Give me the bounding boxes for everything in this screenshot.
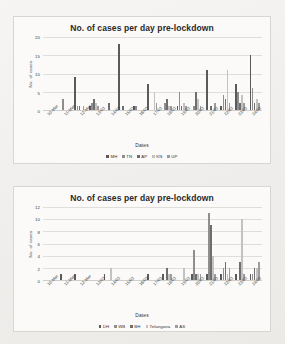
bar bbox=[110, 268, 112, 280]
legend-label: AS bbox=[179, 324, 185, 329]
legend-item: AS bbox=[175, 324, 185, 329]
legend-bottom: DHWBBHTelanganaAS bbox=[14, 324, 270, 329]
bar-group bbox=[72, 207, 87, 280]
bar-group bbox=[233, 37, 248, 110]
bar-group bbox=[101, 207, 116, 280]
legend-item: Telangana bbox=[146, 324, 171, 329]
y-tick-label: 10 bbox=[35, 72, 40, 77]
legend-item: BH bbox=[130, 324, 140, 329]
bar-groups-top bbox=[43, 37, 262, 110]
bar-group bbox=[204, 37, 219, 110]
bar-group bbox=[174, 207, 189, 280]
y-tick-label: 8 bbox=[38, 229, 40, 234]
plot-area-top: No. of cases 05101520 10-Mar11-Mar12-Mar… bbox=[18, 37, 264, 111]
y-tick-label: 5 bbox=[38, 90, 40, 95]
legend-label: Telangana bbox=[149, 324, 170, 329]
plot-area-bottom: No. of cases 024681012 10-Mar11-Mar12-Ma… bbox=[18, 207, 264, 281]
legend-label: UP bbox=[171, 154, 177, 159]
y-tick-label: 2 bbox=[38, 266, 40, 271]
y-tick-label: 10 bbox=[35, 217, 40, 222]
legend-swatch-icon bbox=[175, 325, 178, 328]
legend-swatch-icon bbox=[99, 325, 102, 328]
legend-label: WB bbox=[118, 324, 125, 329]
legend-swatch-icon bbox=[122, 155, 125, 158]
legend-label: DH bbox=[103, 324, 109, 329]
legend-swatch-icon bbox=[137, 155, 140, 158]
y-axis-ticks-bottom: 024681012 bbox=[27, 207, 41, 281]
figure-page: No. of cases per day pre-lockdown No. of… bbox=[0, 0, 285, 344]
plot-canvas-top bbox=[43, 37, 262, 111]
bar-group bbox=[58, 37, 73, 110]
legend-swatch-icon bbox=[106, 155, 109, 158]
bar-group bbox=[174, 37, 189, 110]
legend-label: KN bbox=[156, 154, 162, 159]
legend-swatch-icon bbox=[167, 155, 170, 158]
bar-group bbox=[116, 207, 131, 280]
y-tick-label: 0 bbox=[38, 279, 40, 284]
y-tick-label: 15 bbox=[35, 53, 40, 58]
legend-swatch-icon bbox=[130, 325, 133, 328]
x-axis-title-top: Dates bbox=[14, 143, 270, 148]
bar-group bbox=[160, 207, 175, 280]
bar-groups-bottom bbox=[43, 207, 262, 280]
legend-label: MH bbox=[110, 154, 117, 159]
bar-group bbox=[233, 207, 248, 280]
y-tick-label: 6 bbox=[38, 242, 40, 247]
legend-label: TN bbox=[126, 154, 132, 159]
legend-label: AP bbox=[141, 154, 147, 159]
legend-item: AP bbox=[137, 154, 147, 159]
chart-card-top: No. of cases per day pre-lockdown No. of… bbox=[13, 16, 271, 164]
legend-swatch-icon bbox=[146, 325, 149, 328]
bar-group bbox=[218, 37, 233, 110]
x-axis-labels-bottom: 10-Mar11-Mar12-Mar13/0314/0315/0316/0317… bbox=[43, 283, 262, 309]
chart-title-bottom: No. of cases per day pre-lockdown bbox=[14, 193, 270, 203]
legend-item: WB bbox=[114, 324, 125, 329]
bar-group bbox=[87, 207, 102, 280]
legend-item: MH bbox=[106, 154, 117, 159]
bar-group bbox=[131, 207, 146, 280]
bar-group bbox=[43, 207, 58, 280]
bar bbox=[62, 99, 64, 110]
chart-title-top: No. of cases per day pre-lockdown bbox=[14, 23, 270, 33]
legend-top: MHTNAPKNUP bbox=[14, 154, 270, 159]
legend-label: BH bbox=[134, 324, 140, 329]
legend-item: TN bbox=[122, 154, 132, 159]
bar-group bbox=[218, 207, 233, 280]
bar-group bbox=[58, 207, 73, 280]
bar bbox=[118, 44, 120, 110]
x-axis-title-bottom: Dates bbox=[14, 313, 270, 318]
bar-group bbox=[43, 37, 58, 110]
bar-group bbox=[145, 207, 160, 280]
legend-swatch-icon bbox=[114, 325, 117, 328]
legend-item: DH bbox=[99, 324, 109, 329]
bar-group bbox=[204, 207, 219, 280]
legend-item: KN bbox=[152, 154, 162, 159]
legend-item: UP bbox=[167, 154, 177, 159]
bar-group bbox=[160, 37, 175, 110]
x-axis-labels-top: 10-Mar11-Mar12-Mar13/0314/0315/0316/0317… bbox=[43, 113, 262, 139]
bar-group bbox=[189, 207, 204, 280]
bar-group bbox=[189, 37, 204, 110]
bar-group bbox=[131, 37, 146, 110]
bar-group bbox=[101, 37, 116, 110]
bar-group bbox=[116, 37, 131, 110]
chart-card-bottom: No. of cases per day pre-lockdown No. of… bbox=[13, 186, 271, 332]
bar bbox=[206, 70, 208, 110]
bar-group bbox=[247, 37, 262, 110]
bar bbox=[241, 219, 243, 280]
bar-group bbox=[72, 37, 87, 110]
bar-group bbox=[87, 37, 102, 110]
legend-swatch-icon bbox=[152, 155, 155, 158]
bar-group bbox=[247, 207, 262, 280]
plot-canvas-bottom bbox=[43, 207, 262, 281]
y-tick-label: 4 bbox=[38, 254, 40, 259]
y-axis-ticks-top: 05101520 bbox=[27, 37, 41, 111]
y-tick-label: 20 bbox=[35, 35, 40, 40]
bar-group bbox=[145, 37, 160, 110]
y-tick-label: 0 bbox=[38, 109, 40, 114]
y-tick-label: 12 bbox=[35, 205, 40, 210]
